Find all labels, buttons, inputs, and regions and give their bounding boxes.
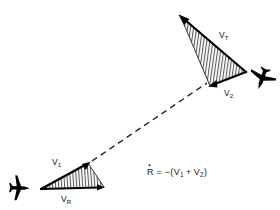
vector-diagram-figure: VT V2 V1 VR bbox=[0, 0, 280, 210]
equation-text: R=−(V1+V2) bbox=[147, 167, 207, 178]
closing-rate-equation: R=−(V1+V2) bbox=[147, 164, 207, 178]
equation-relation: = bbox=[156, 167, 162, 177]
velocity-vector-diagram: VT V2 V1 VR bbox=[0, 0, 280, 210]
equation-term1-sub: 1 bbox=[180, 171, 184, 178]
figure-background bbox=[0, 0, 280, 210]
vector-vr-shaft bbox=[41, 188, 99, 190]
equation-rhs-prefix: −( bbox=[165, 167, 174, 177]
equation-lhs: R bbox=[147, 167, 154, 177]
equation-operator: + bbox=[186, 167, 192, 177]
equation-rdot-accent bbox=[149, 164, 151, 166]
equation-rhs-suffix: ) bbox=[204, 167, 207, 177]
